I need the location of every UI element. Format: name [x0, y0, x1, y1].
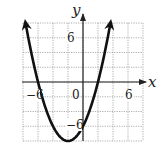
x-axis-label: x [148, 73, 157, 91]
x-tick-6: 6 [125, 88, 133, 102]
y-tick-neg6: −6 [66, 118, 84, 132]
parabola-graph: y x 6 −6 0 6 −6 [0, 0, 159, 147]
y-tick-6: 6 [67, 31, 75, 45]
x-tick-neg6: −6 [26, 88, 44, 102]
origin-label: 0 [72, 88, 80, 102]
y-axis-label: y [71, 1, 81, 19]
